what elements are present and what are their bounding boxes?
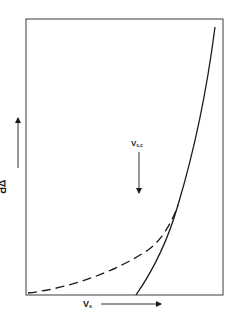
critical-velocity-label: Vs,c	[131, 140, 143, 149]
plot-frame	[26, 19, 223, 295]
chart-canvas	[0, 0, 235, 323]
x-axis-label: Vs	[83, 300, 92, 310]
y-axis-label-main: ∇P	[0, 180, 7, 194]
y-axis-label: ∇P	[0, 180, 6, 194]
x-axis-label-sub: s	[89, 303, 92, 309]
critical-velocity-label-sub: s,c	[136, 143, 143, 148]
dashed-curve	[28, 205, 178, 293]
solid-curve	[136, 27, 215, 295]
